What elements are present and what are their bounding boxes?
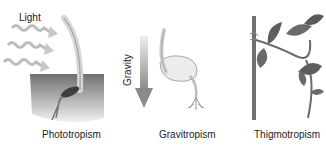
soil-block <box>30 74 104 122</box>
gravity-label: Gravity <box>122 54 133 86</box>
phototropism-panel: Light Phototropism <box>0 0 108 156</box>
down-arrow-icon <box>135 36 153 108</box>
gravitropism-panel: Gravity Gravitropism <box>110 0 218 156</box>
thigmotropism-panel: Thigmotropism <box>216 0 326 156</box>
support-stake-icon <box>252 16 256 120</box>
phototropism-caption: Phototropism <box>42 129 101 140</box>
gravitropism-caption: Gravitropism <box>159 129 216 140</box>
light-wave-arrows-icon <box>4 26 50 67</box>
light-label: Light <box>19 12 41 23</box>
thigmotropism-caption: Thigmotropism <box>254 129 320 140</box>
